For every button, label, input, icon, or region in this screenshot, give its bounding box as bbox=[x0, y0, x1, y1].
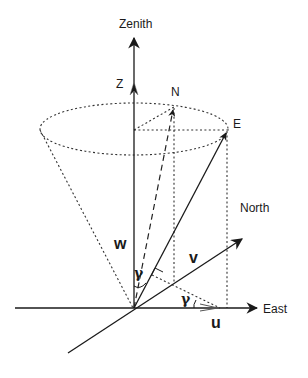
e-point-label: E bbox=[233, 117, 241, 131]
gamma-arc-horizontal bbox=[194, 300, 196, 308]
radius-to-n bbox=[134, 107, 174, 130]
vector-to-e bbox=[134, 133, 226, 308]
u-component-label: u bbox=[211, 314, 221, 331]
n-point-label: N bbox=[171, 85, 180, 99]
north-axis-label: North bbox=[240, 201, 269, 215]
gamma-vertical-label: γ bbox=[134, 265, 144, 281]
gamma-arc-vertical bbox=[134, 283, 146, 287]
zenith-label: Zenith bbox=[119, 17, 152, 31]
vector-diagram: Zenith Z N E North East w v u γ γ bbox=[0, 0, 308, 378]
w-component-label: w bbox=[113, 235, 127, 252]
north-axis bbox=[68, 239, 242, 353]
east-axis-label: East bbox=[263, 302, 288, 316]
z-axis-label: Z bbox=[116, 77, 123, 91]
gamma-horizontal-label: γ bbox=[181, 291, 191, 307]
v-component-label: v bbox=[189, 249, 198, 266]
cone-left-edge bbox=[40, 130, 133, 308]
